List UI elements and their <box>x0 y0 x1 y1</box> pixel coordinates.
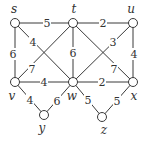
weighted-graph: 526476734424655 stuvwxyz <box>0 0 145 141</box>
edge-weight-t-v: 7 <box>29 63 36 76</box>
edge-weight-s-w: 4 <box>30 36 37 49</box>
edge-weight-t-x: 7 <box>111 63 118 76</box>
edge-weight-w-x: 2 <box>99 76 106 89</box>
node-v <box>11 78 20 87</box>
edge-weight-t-u: 2 <box>100 17 107 30</box>
node-y <box>40 111 49 120</box>
edge-weight-v-y: 4 <box>27 94 34 107</box>
node-label-v: v <box>9 89 16 103</box>
node-label-x: x <box>131 89 138 103</box>
node-x <box>129 78 138 87</box>
edge-weight-v-w: 4 <box>41 76 48 89</box>
edge-weight-y-w: 6 <box>54 95 61 108</box>
node-label-w: w <box>67 89 78 103</box>
node-label-u: u <box>127 2 135 16</box>
edge-weight-t-w: 6 <box>70 47 77 60</box>
edge-weight-u-w: 3 <box>110 36 117 49</box>
edge-weight-w-z: 5 <box>85 94 92 107</box>
edge-weight-u-x: 4 <box>131 48 138 61</box>
node-label-t: t <box>72 2 77 16</box>
node-label-s: s <box>11 2 17 16</box>
node-label-y: y <box>38 121 46 135</box>
node-label-z: z <box>100 123 108 137</box>
edge-weight-s-v: 6 <box>10 48 17 61</box>
node-w <box>69 78 78 87</box>
node-u <box>129 19 138 28</box>
node-t <box>69 19 78 28</box>
edge-weight-s-t: 5 <box>44 17 51 30</box>
node-s <box>11 19 20 28</box>
edge-weight-z-x: 5 <box>114 95 121 108</box>
node-z <box>98 113 107 122</box>
